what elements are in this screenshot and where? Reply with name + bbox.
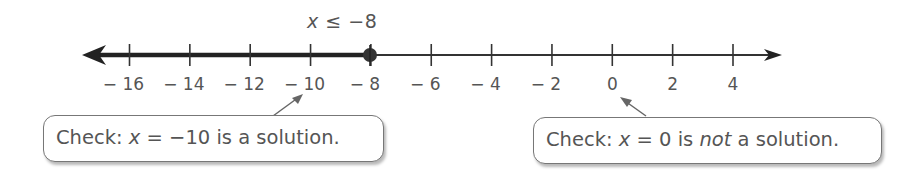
callout-left: Check: x = −10 is a solution. bbox=[43, 115, 384, 162]
inequality-label: x ≤ −8 bbox=[307, 10, 377, 32]
tick-label: − 8 bbox=[350, 74, 380, 94]
tick-label: − 10 bbox=[284, 74, 325, 94]
tick-label: − 12 bbox=[224, 74, 265, 94]
left-pointer-arrowhead-icon bbox=[292, 94, 303, 104]
tick-label: − 14 bbox=[163, 74, 204, 94]
tick-label: − 6 bbox=[410, 74, 440, 94]
tick-label: − 16 bbox=[103, 74, 144, 94]
tick-label: − 4 bbox=[470, 74, 500, 94]
tick-label: − 2 bbox=[531, 74, 561, 94]
tick-label: 0 bbox=[607, 74, 618, 94]
tick-labels: − 16− 14− 12− 10− 8− 6− 4− 2024 bbox=[103, 74, 739, 94]
callout-right: Check: x = 0 is not a solution. bbox=[533, 117, 882, 164]
tick-label: 4 bbox=[728, 74, 739, 94]
number-line-figure: − 16− 14− 12− 10− 8− 6− 4− 2024 x ≤ −8 C… bbox=[0, 0, 918, 176]
tick-label: 2 bbox=[667, 74, 678, 94]
